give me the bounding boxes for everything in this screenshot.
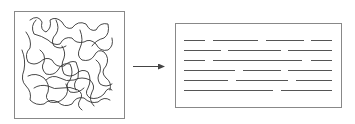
right-box-frame: [176, 24, 342, 108]
ordered-parallel-lines: [184, 41, 332, 91]
diagram-svg: [0, 0, 355, 124]
left-box-frame: [15, 12, 125, 119]
right-panel-ordered: [176, 24, 342, 108]
tangled-strands: [22, 17, 113, 110]
diagram-canvas: [0, 0, 355, 124]
left-panel-tangled: [15, 12, 125, 119]
